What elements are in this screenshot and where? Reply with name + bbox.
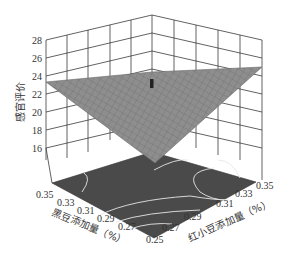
y-tick-033: 0.33 [57,197,75,208]
x-tick-029: 0.29 [184,211,202,222]
x-tick-027: 0.27 [162,222,180,233]
x-tick-031: 0.31 [216,198,234,209]
max-point-marker [150,79,154,88]
z-tick-24: 24 [32,71,42,82]
z-tick-20: 20 [32,107,42,118]
x-tick-035: 0.35 [256,180,274,191]
y-tick-029: 0.29 [97,213,115,224]
z-tick-16: 16 [32,143,42,154]
z-tick-28: 28 [32,35,42,46]
front-edges [46,148,52,183]
z-tick-22: 22 [32,89,42,100]
y-tick-035: 0.35 [36,189,54,200]
response-surface [46,67,262,163]
z-tick-26: 26 [32,53,42,64]
y-tick-031: 0.31 [77,205,95,216]
x-tick-025: 0.25 [146,234,164,245]
x-tick-033: 0.33 [235,188,253,199]
z-axis-label: 感官评价 [14,82,26,122]
y-tick-027: 0.27 [118,221,136,232]
z-tick-18: 18 [32,125,42,136]
z-axis-ticks: 28 26 24 22 20 18 16 [32,35,42,154]
response-surface-chart: 28 26 24 22 20 18 16 感官评价 0.35 0.33 0.31… [0,0,290,263]
